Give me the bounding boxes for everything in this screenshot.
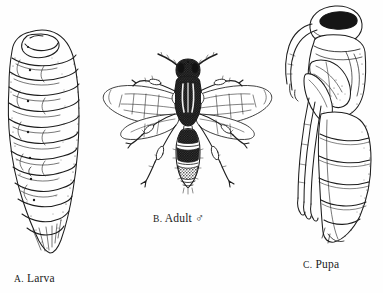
caption-adult-index: B. (153, 214, 162, 224)
caption-larva: A. Larva (14, 272, 55, 284)
caption-pupa-name: Pupa (315, 258, 339, 270)
caption-larva-index: A. (14, 274, 24, 284)
illustration-plate: A. Larva B. Adult ♂ C. Pupa (0, 0, 383, 293)
larva-figure (0, 14, 108, 264)
male-sex-symbol-icon: ♂ (195, 211, 204, 225)
adult-figure (96, 52, 281, 207)
pupa-figure (276, 2, 381, 252)
caption-larva-name: Larva (27, 272, 55, 284)
caption-pupa-index: C. (303, 260, 312, 270)
caption-adult-name: Adult (165, 212, 192, 224)
caption-pupa: C. Pupa (303, 258, 339, 270)
caption-adult: B. Adult ♂ (153, 211, 204, 226)
